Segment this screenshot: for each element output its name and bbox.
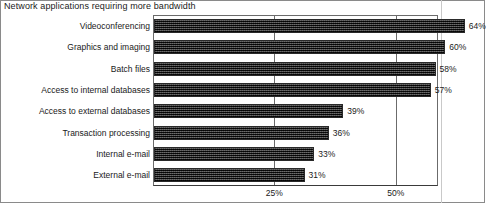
chart-title: Network applications requiring more band…: [4, 1, 196, 11]
category-label: Access to internal databases: [0, 80, 150, 101]
bar-value-label: 36%: [333, 126, 350, 140]
bar: [154, 168, 305, 182]
bar-value-label: 58%: [440, 62, 457, 76]
bar: [154, 62, 436, 76]
bar-chart-figure: Network applications requiring more band…: [0, 0, 486, 204]
bar-value-label: 57%: [435, 83, 452, 97]
bar: [154, 147, 314, 161]
bar-value-label: 39%: [347, 104, 364, 118]
bar-row: External e-mail31%: [0, 165, 486, 186]
bar-value-label: 60%: [449, 40, 466, 54]
bar-row: Graphics and imaging60%: [0, 37, 486, 58]
category-label: Batch files: [0, 59, 150, 80]
category-label: Transaction processing: [0, 123, 150, 144]
category-label: Access to external databases: [0, 101, 150, 122]
bar: [154, 19, 465, 33]
category-label: Graphics and imaging: [0, 37, 150, 58]
bar-row: Videoconferencing64%: [0, 16, 486, 37]
category-label: Internal e-mail: [0, 144, 150, 165]
bar-value-label: 33%: [318, 147, 335, 161]
bar-row: Access to external databases39%: [0, 101, 486, 122]
bar: [154, 126, 329, 140]
bar-value-label: 31%: [309, 168, 326, 182]
bar-row: Batch files58%: [0, 59, 486, 80]
category-label: Videoconferencing: [0, 16, 150, 37]
tick-label: 50%: [376, 188, 416, 198]
bar-row: Access to internal databases57%: [0, 80, 486, 101]
bar-row: Internal e-mail33%: [0, 144, 486, 165]
category-label: External e-mail: [0, 165, 150, 186]
bar-row: Transaction processing36%: [0, 123, 486, 144]
bar: [154, 40, 445, 54]
bar: [154, 83, 431, 97]
bar: [154, 104, 343, 118]
tick-label: 25%: [254, 188, 294, 198]
bar-value-label: 64%: [469, 19, 486, 33]
